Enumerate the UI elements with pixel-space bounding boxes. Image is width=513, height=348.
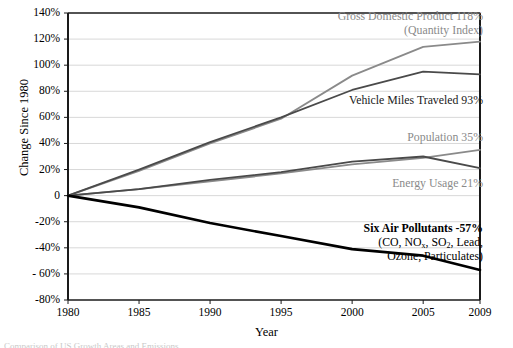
plot-canvas xyxy=(0,0,513,348)
annotation-pollutants-line1: Six Air Pollutants -57% xyxy=(364,222,483,236)
annotation-energy-usage: Energy Usage 21% xyxy=(392,177,483,191)
x-tick-label: 2000 xyxy=(322,306,382,318)
pollutants-pre: (CO, NO xyxy=(378,235,421,249)
x-tick-label: 1990 xyxy=(180,306,240,318)
annotation-energy-line1: Energy Usage 21% xyxy=(392,177,483,191)
x-tick-label: 2005 xyxy=(393,306,453,318)
annotation-gross-domestic-product: Gross Domestic Product 118% (Quantity In… xyxy=(338,10,483,38)
x-tick-label: 1985 xyxy=(109,306,169,318)
annotation-pollutants-line3: Ozone, Particulates) xyxy=(364,250,483,264)
x-tick-label: 1995 xyxy=(251,306,311,318)
annotation-pollutants-line2: (CO, NOx, SO2, Lead, xyxy=(364,236,483,250)
annotation-gdp-line2: (Quantity Index) xyxy=(338,24,483,38)
pollutants-post: , Lead, xyxy=(451,235,483,249)
x-tick-label: 2009 xyxy=(450,306,510,318)
chart-figure: Change Since 1980 140%120%100%80%60%40%2… xyxy=(0,0,513,348)
figure-footnote: Comparison of US Growth Areas and Emissi… xyxy=(4,341,509,348)
pollutants-mid: , SO xyxy=(426,235,447,249)
x-axis-title: Year xyxy=(10,325,513,340)
annotation-vehicle-miles-traveled: Vehicle Miles Traveled 93% xyxy=(349,94,483,108)
annotation-vmt-line1: Vehicle Miles Traveled 93% xyxy=(349,94,483,108)
x-tick-label: 1980 xyxy=(38,306,98,318)
annotation-six-air-pollutants: Six Air Pollutants -57% (CO, NOx, SO2, L… xyxy=(364,222,483,264)
annotation-population: Population 35% xyxy=(407,131,483,145)
annotation-gdp-line1: Gross Domestic Product 118% xyxy=(338,10,483,24)
annotation-population-line1: Population 35% xyxy=(407,131,483,145)
